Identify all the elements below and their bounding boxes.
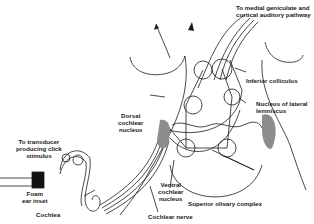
cochlea-spiral [60,151,100,211]
label-cochlea: Cochlea [36,211,60,218]
label-superior-olivary: Superior olivary complex [188,200,262,207]
label-transducer-line2: producing click [16,145,62,152]
label-dorsal-line3: nucleus [118,126,143,133]
label-transducer-line3: stimulus [16,152,62,159]
ear-canal [0,178,32,186]
label-foam-line1: Foam [22,190,47,197]
label-foam: Foam ear inset [22,190,47,204]
right-hemisphere-outline [265,42,303,62]
lateral-lemniscus-left [184,96,202,114]
label-dorsal-line2: cochlear [118,119,143,126]
pons-outline [172,122,262,128]
label-inferior-colliculus: Inferior colliculus [246,77,298,84]
label-ventral-cochlear: Ventral cochlear nucleus [158,181,183,202]
label-lateral-lemniscus-line2: lemniscus [256,107,308,114]
label-ventral-line1: Ventral [158,181,183,188]
label-lateral-lemniscus-line1: Nucleus of lateral [256,100,308,107]
label-foam-line2: ear inset [22,197,47,204]
label-cochlear-nerve: Cochlear nerve [148,213,193,220]
dorsal-cochlear-shading [157,120,170,149]
label-dorsal-cochlear: Dorsal cochlear nucleus [118,112,143,133]
foam-ear-insert [32,172,44,188]
label-top-line2: cortical auditory pathway [236,11,311,18]
label-lateral-lemniscus: Nucleus of lateral lemniscus [256,100,308,114]
label-ventral-line2: cochlear [158,188,183,195]
left-hemisphere-outline [130,56,185,75]
label-ventral-line3: nucleus [158,195,183,202]
olive-bowl [170,165,262,197]
right-cochlear-shading [262,114,276,149]
label-dorsal-line1: Dorsal [118,112,143,119]
label-top: To medial geniculate and cortical audito… [236,4,311,18]
label-transducer: To transducer producing click stimulus [16,138,62,159]
label-transducer-line1: To transducer [16,138,62,145]
label-top-line1: To medial geniculate and [236,4,311,11]
